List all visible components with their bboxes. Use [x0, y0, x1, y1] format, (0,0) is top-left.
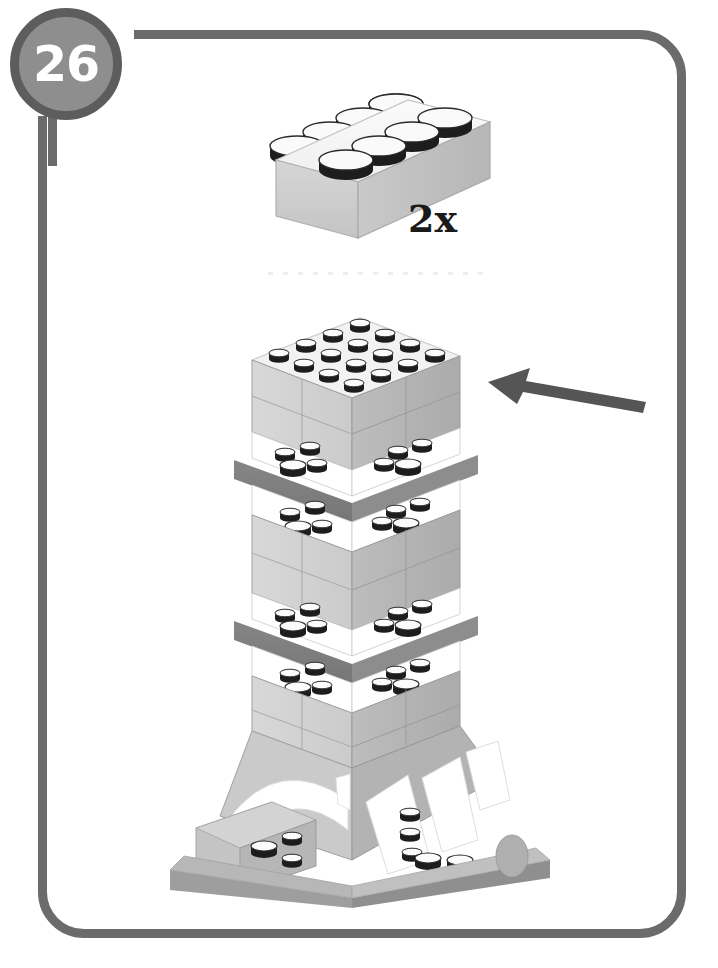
instruction-page: 26: [0, 0, 718, 968]
brick-2x4-icon: [228, 88, 508, 263]
step-number-badge: 26: [10, 8, 122, 120]
eiffel-tower-model-icon: [160, 300, 560, 910]
dotted-divider: [268, 272, 488, 275]
model-assembly-illustration: [160, 300, 560, 910]
part-quantity-label: 2x: [408, 196, 457, 241]
step-number-label: 26: [33, 40, 99, 89]
parts-callout: 2x: [228, 88, 508, 263]
